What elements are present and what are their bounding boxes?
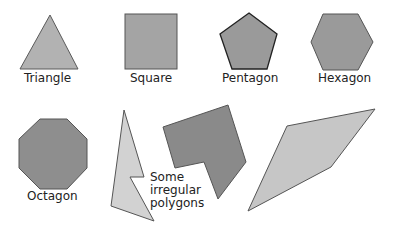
pentagon-label: Pentagon <box>222 72 278 85</box>
square-shape <box>125 14 177 69</box>
triangle-label: Triangle <box>24 72 71 85</box>
irregular-polygons-label: Some irregular polygons <box>150 171 204 210</box>
hexagon-shape <box>311 14 373 70</box>
pentagon-shape <box>220 13 277 69</box>
hexagon-label: Hexagon <box>318 72 371 85</box>
octagon-label: Octagon <box>27 190 78 203</box>
octagon-shape <box>19 119 87 189</box>
triangle-shape <box>20 15 78 69</box>
irregular-polygon-light <box>248 109 375 211</box>
square-label: Square <box>130 72 172 85</box>
irregular-polygon-thin <box>111 110 154 221</box>
